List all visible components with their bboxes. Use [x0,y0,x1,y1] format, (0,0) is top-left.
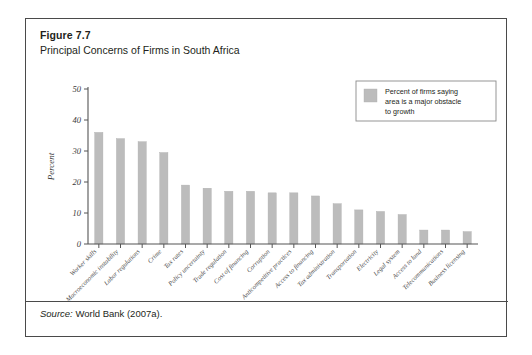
x-tick-label: Access to financing [272,247,314,289]
bar [203,188,211,244]
y-tick-label: 40 [73,115,82,125]
y-tick-label: 0 [77,239,82,249]
bar [95,132,103,244]
bar [160,153,168,244]
x-tick-label: Crime [146,248,163,265]
source-note: Source: World Bank (2007a). [40,308,162,319]
source-label: Source: [40,308,73,319]
footer-divider [26,301,508,302]
legend-swatch [364,89,377,102]
chart-legend: Percent of firms sayingarea is a major o… [356,81,496,121]
y-axis-title: Percent [46,152,56,181]
source-text: World Bank (2007a). [73,308,163,319]
legend-label-line: to growth [385,107,415,116]
x-axis: Worker skillsMacroeconomic instabilityLa… [64,244,478,303]
x-tick-label: Telecommunications [401,247,444,290]
x-tick-label: Policy uncertainty [166,248,206,288]
bar [441,230,449,244]
y-tick-label: 50 [73,84,82,94]
bar [333,204,341,244]
bar [355,210,363,244]
bar-chart: 01020304050Percent Worker skillsMacroeco… [26,19,508,338]
bar [311,196,319,244]
bars-group [95,132,472,244]
bar [138,142,146,244]
bar [225,191,233,244]
bar [463,232,471,244]
figure-container: Figure 7.7 Principal Concerns of Firms i… [25,18,507,337]
chart-plot-area: 01020304050Percent Worker skillsMacroeco… [26,19,508,338]
y-tick-label: 10 [73,208,82,218]
bar [398,215,406,244]
y-tick-label: 30 [72,146,82,156]
legend-label-line: area is a major obstacle [385,97,461,106]
y-tick-label: 20 [73,177,82,187]
legend-label-line: Percent of firms saying [385,87,458,96]
bar [181,185,189,244]
bar [290,193,298,244]
x-tick-label: Tax administration [296,247,337,288]
bar [116,139,124,244]
y-axis: 01020304050Percent [46,84,88,249]
bar [376,211,384,244]
bar [268,193,276,244]
bar [420,230,428,244]
bar [246,191,254,244]
